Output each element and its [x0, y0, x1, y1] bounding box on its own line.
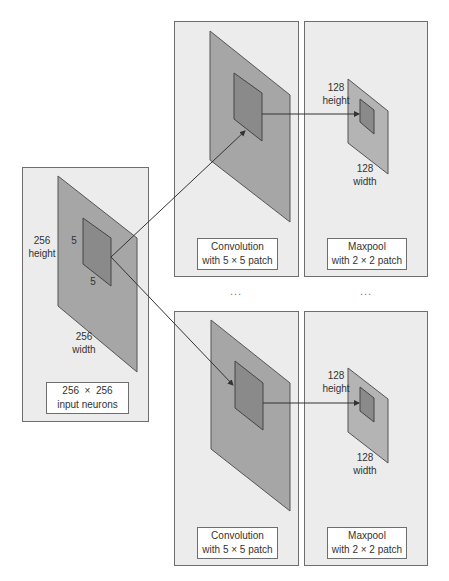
input-height-text: height — [24, 247, 60, 260]
pool-top-box-title: Maxpool — [348, 240, 386, 254]
conv-top-box-subtitle: with 5 × 5 patch — [202, 254, 272, 268]
input-patch-width: 5 — [88, 275, 98, 288]
pool-top-width-value: 128 — [347, 162, 383, 175]
pool-top-height-label: 128 height — [318, 81, 354, 107]
pool-bottom-label-box: Maxpool with 2 × 2 patch — [327, 527, 407, 559]
ellipsis-conv: ... — [230, 285, 242, 297]
conv-top-label-box: Convolution with 5 × 5 patch — [197, 238, 278, 270]
input-height-label: 256 height — [24, 234, 60, 260]
pool-top-box-subtitle: with 2 × 2 patch — [332, 254, 402, 268]
pool-top-width-label: 128 width — [347, 162, 383, 188]
input-width-label: 256 width — [66, 330, 102, 356]
diagram-shapes — [0, 0, 449, 581]
input-box-subtitle: input neurons — [57, 398, 118, 412]
conv-bottom-box-subtitle: with 5 × 5 patch — [202, 543, 272, 557]
pool-top-height-text: height — [318, 94, 354, 107]
conv-top-box-title: Convolution — [211, 240, 264, 254]
pool-top-width-text: width — [347, 175, 383, 188]
ellipsis-pool: ... — [360, 285, 372, 297]
input-box-title: 256 × 256 — [62, 384, 112, 398]
pool-bottom-box-title: Maxpool — [348, 529, 386, 543]
pool-bottom-box-subtitle: with 2 × 2 patch — [332, 543, 402, 557]
pool-bottom-height-text: height — [318, 382, 354, 395]
pool-bottom-height-value: 128 — [318, 369, 354, 382]
pool-bottom-width-text: width — [347, 464, 383, 477]
input-height-value: 256 — [24, 234, 60, 247]
input-patch-height: 5 — [69, 234, 79, 247]
pool-top-label-box: Maxpool with 2 × 2 patch — [327, 238, 407, 270]
pool-bottom-height-label: 128 height — [318, 369, 354, 395]
conv-bottom-label-box: Convolution with 5 × 5 patch — [197, 527, 278, 559]
pool-bottom-width-label: 128 width — [347, 451, 383, 477]
conv-bottom-box-title: Convolution — [211, 529, 264, 543]
input-width-value: 256 — [66, 330, 102, 343]
pool-bottom-width-value: 128 — [347, 451, 383, 464]
input-label-box: 256 × 256 input neurons — [46, 382, 129, 414]
input-width-text: width — [66, 343, 102, 356]
pool-top-height-value: 128 — [318, 81, 354, 94]
